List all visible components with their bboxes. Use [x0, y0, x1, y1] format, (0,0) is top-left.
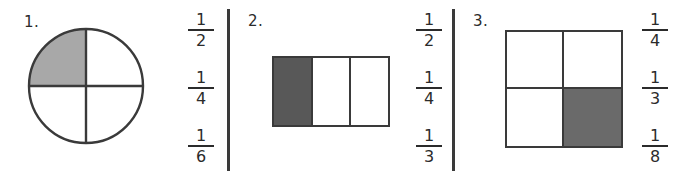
numerator: 1 [177, 69, 225, 86]
denominator: 2 [177, 32, 225, 49]
numerator: 1 [177, 11, 225, 28]
quartered-circle-icon [27, 27, 145, 145]
problem-2-choices: 1 2 1 4 1 3 [405, 0, 453, 179]
bar-cell-shaded [274, 58, 313, 125]
numerator: 1 [631, 11, 679, 28]
grid-cell-bottom-right-shaded [564, 89, 621, 146]
problem-1-choice-2[interactable]: 1 4 [177, 69, 225, 107]
problem-3-choice-3[interactable]: 1 8 [631, 127, 679, 165]
problem-2-choice-1[interactable]: 1 2 [405, 11, 453, 49]
problem-1-choice-1[interactable]: 1 2 [177, 11, 225, 49]
bar-cell [351, 58, 388, 125]
numerator: 1 [405, 69, 453, 86]
numerator: 1 [631, 127, 679, 144]
problem-3-number: 3. [473, 14, 488, 29]
numerator: 1 [177, 127, 225, 144]
problem-2-choice-3[interactable]: 1 3 [405, 127, 453, 165]
problem-2-number: 2. [248, 14, 263, 29]
problem-3-square-figure [505, 30, 623, 148]
denominator: 8 [631, 148, 679, 165]
grid-cell-top-left [507, 32, 564, 89]
problem-3-choice-2[interactable]: 1 3 [631, 69, 679, 107]
problem-1-circle-figure [27, 27, 145, 145]
problem-1-choice-3[interactable]: 1 6 [177, 127, 225, 165]
problem-2-bar-figure [272, 56, 390, 127]
problem-3-choices: 1 4 1 3 1 8 [631, 0, 679, 179]
problem-2: 2. 1 2 1 4 1 3 [229, 0, 453, 179]
denominator: 4 [631, 32, 679, 49]
problem-3-choice-1[interactable]: 1 4 [631, 11, 679, 49]
problem-3: 3. 1 4 1 3 1 8 [454, 0, 680, 179]
numerator: 1 [405, 127, 453, 144]
numerator: 1 [405, 11, 453, 28]
denominator: 3 [631, 90, 679, 107]
problem-1-choices: 1 2 1 4 1 6 [177, 0, 225, 179]
grid-cell-top-right [564, 32, 621, 89]
denominator: 4 [405, 90, 453, 107]
denominator: 2 [405, 32, 453, 49]
numerator: 1 [631, 69, 679, 86]
problem-2-choice-2[interactable]: 1 4 [405, 69, 453, 107]
denominator: 4 [177, 90, 225, 107]
fractions-worksheet: 1. 1 2 1 4 1 6 [0, 0, 680, 179]
denominator: 6 [177, 148, 225, 165]
bar-cell [313, 58, 352, 125]
grid-cell-bottom-left [507, 89, 564, 146]
denominator: 3 [405, 148, 453, 165]
problem-1: 1. 1 2 1 4 1 6 [0, 0, 228, 179]
